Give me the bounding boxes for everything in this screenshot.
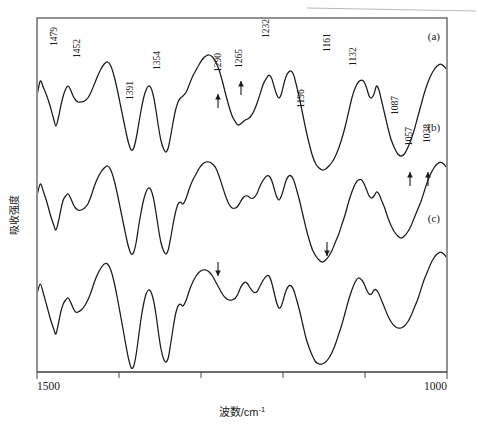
curve-label-c: (c) xyxy=(428,212,441,225)
x-axis-tick-label-left: 1500 xyxy=(37,380,60,392)
x-axis-tick-label-right: 1000 xyxy=(424,380,447,392)
x-axis-title: 波数/cm-1 xyxy=(219,405,265,418)
peak-label: 1161 xyxy=(322,33,332,52)
peak-label: 1196 xyxy=(296,89,306,108)
y-axis-title: 吸收强度 xyxy=(8,195,20,235)
peak-label: 1479 xyxy=(49,27,59,46)
peak-label: 1290 xyxy=(213,53,223,72)
peak-label: 1087 xyxy=(390,96,400,115)
curve-label-a: (a) xyxy=(428,30,441,43)
peak-label: 1132 xyxy=(348,47,358,66)
peak-label: 1354 xyxy=(152,51,162,70)
peak-label: 1391 xyxy=(125,81,135,100)
curve-label-b: (b) xyxy=(427,121,440,134)
peak-label: 1452 xyxy=(72,39,82,58)
ir-spectrum-chart: 1479145213911354129012651232119611611132… xyxy=(0,0,478,428)
figure-root: 1479145213911354129012651232119611611132… xyxy=(0,0,478,428)
peak-label: 1232 xyxy=(261,19,271,38)
peak-label: 1057 xyxy=(404,127,414,146)
peak-label: 1265 xyxy=(234,49,244,68)
